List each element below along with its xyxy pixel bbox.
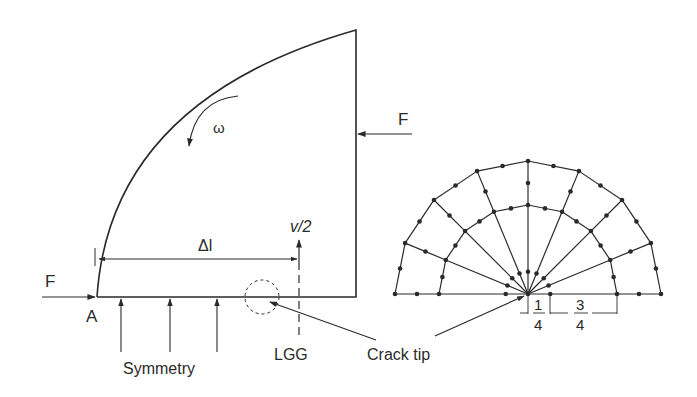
disk-outline: [97, 30, 356, 297]
mesh-node: [637, 292, 642, 297]
mesh-node: [503, 292, 508, 297]
mesh-node: [526, 269, 531, 274]
mesh-node: [634, 219, 639, 224]
mesh-node: [541, 276, 546, 281]
force-right-label: F: [398, 110, 408, 129]
dim-left-numerator: 1: [534, 296, 542, 313]
delta-l-label: Δl: [198, 237, 212, 254]
crack-tip-mesh: [393, 159, 664, 297]
dim-right-denominator: 4: [576, 316, 584, 333]
crack-tip-pointer-left-icon: [270, 302, 376, 340]
mesh-node: [505, 283, 510, 288]
mesh-node: [417, 219, 422, 224]
mesh-node: [615, 292, 620, 297]
mesh-node: [611, 275, 616, 280]
mesh-node: [453, 243, 458, 248]
crack-tip-label: Crack tip: [367, 346, 430, 363]
mesh-node: [568, 189, 573, 194]
mesh-edge: [465, 231, 528, 294]
quarter-point-dimension: 1 4 3 4: [520, 296, 617, 333]
mesh-node: [604, 213, 609, 218]
dim-left-denominator: 4: [534, 316, 542, 333]
mesh-node: [548, 292, 553, 297]
lgg-label: LGG: [274, 346, 308, 363]
disk-quarter-model: [97, 30, 356, 297]
crack-tip-pointer-right-icon: [435, 296, 524, 336]
dim-right-numerator: 3: [576, 296, 584, 313]
mesh-node: [628, 249, 633, 254]
mesh-node: [659, 292, 664, 297]
force-left-label: F: [45, 272, 55, 291]
mesh-node: [534, 271, 539, 276]
mesh-node: [423, 249, 428, 254]
mesh-node: [447, 213, 452, 218]
mesh-node: [510, 276, 515, 281]
mesh-node: [526, 181, 531, 186]
v-half-label: v/2: [290, 218, 311, 235]
mesh-node: [543, 206, 548, 211]
mesh-node: [415, 292, 420, 297]
mesh-edge: [528, 231, 591, 294]
delta-l-dimension: Δl: [95, 237, 297, 266]
mesh-node: [654, 266, 659, 271]
mesh-node: [453, 183, 458, 188]
mesh-node: [598, 183, 603, 188]
mesh-node: [546, 283, 551, 288]
mesh-node: [500, 164, 505, 169]
mesh-node: [440, 275, 445, 280]
symmetry-supports: Symmetry: [121, 299, 217, 377]
mesh-node: [526, 292, 531, 297]
force-right: F: [358, 110, 412, 134]
mesh-node: [551, 164, 556, 169]
mesh-node: [398, 266, 403, 271]
force-left: F A: [42, 272, 98, 326]
mesh-node: [483, 189, 488, 194]
lgg-line: v/2 LGG: [274, 218, 311, 363]
mesh-node: [598, 243, 603, 248]
mesh-node: [517, 271, 522, 276]
mesh-node: [574, 219, 579, 224]
rotation-arrow: ω: [189, 96, 238, 146]
mesh-node: [509, 206, 514, 211]
mesh-node: [477, 219, 482, 224]
omega-label: ω: [213, 119, 225, 136]
symmetry-label: Symmetry: [123, 360, 195, 377]
point-a-label: A: [86, 307, 98, 326]
diagram-canvas: ω F F A Δl v/2 LGG Symmetry Crack tip: [0, 0, 697, 397]
